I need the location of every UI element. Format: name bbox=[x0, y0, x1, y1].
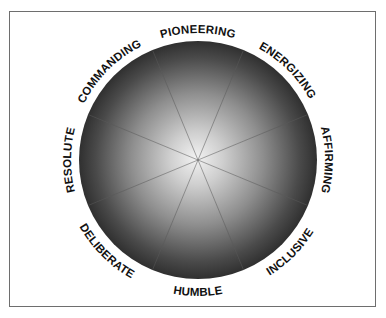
label-pioneering: PIONEERING bbox=[159, 23, 238, 40]
diagram-canvas: PIONEERING ENERGIZING AFFIRMING RESOLUTE… bbox=[0, 0, 386, 318]
label-humble: HUMBLE bbox=[173, 284, 224, 298]
style-wheel: PIONEERING ENERGIZING AFFIRMING RESOLUTE… bbox=[0, 0, 386, 318]
label-affirming: AFFIRMING bbox=[319, 125, 335, 195]
label-resolute: RESOLUTE bbox=[61, 126, 77, 194]
